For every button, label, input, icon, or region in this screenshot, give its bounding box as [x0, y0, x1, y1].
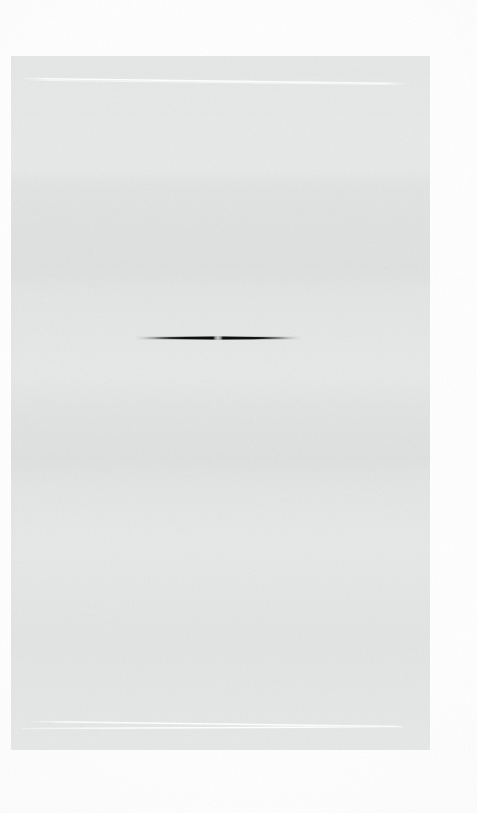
- panel-banding: [11, 56, 430, 750]
- screenshot-root: Washed-out scan: pale gray panel with tw…: [0, 0, 477, 813]
- gray-panel: [11, 56, 430, 750]
